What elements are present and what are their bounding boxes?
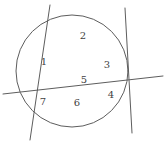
region-label-7: 7 [40, 97, 46, 107]
geometry-canvas [0, 0, 165, 145]
region-label-2: 2 [80, 31, 86, 41]
figure-container: 1 2 3 4 5 6 7 [0, 0, 165, 145]
region-label-1: 1 [41, 57, 47, 67]
main-circle [16, 15, 128, 127]
region-label-6: 6 [74, 98, 80, 108]
chord-line-b [125, 8, 132, 133]
region-label-4: 4 [108, 90, 114, 100]
region-label-3: 3 [104, 60, 110, 70]
region-label-5: 5 [81, 75, 87, 85]
